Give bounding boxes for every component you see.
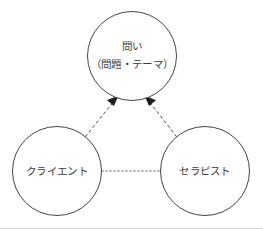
client-node[interactable]: クライエント	[13, 127, 102, 216]
client-to-question-arrow	[85, 96, 118, 137]
diagram-figure: 問い （問題・テーマ） クライエント セラピスト	[0, 0, 263, 233]
therapist-to-question-arrow	[144, 96, 176, 137]
question-node-label-line1: 問い	[122, 40, 143, 52]
question-node-circle[interactable]	[88, 12, 177, 101]
client-to-question-line	[85, 104, 112, 137]
therapist-node-label: セラピスト	[179, 165, 231, 177]
client-node-label: クライエント	[26, 165, 88, 177]
relationship-diagram: 問い （問題・テーマ） クライエント セラピスト	[0, 0, 263, 233]
question-node-label-line2: （問題・テーマ）	[91, 58, 173, 70]
therapist-node[interactable]: セラピスト	[161, 127, 250, 216]
question-node[interactable]: 問い （問題・テーマ）	[88, 12, 177, 101]
therapist-to-question-line	[151, 104, 177, 137]
